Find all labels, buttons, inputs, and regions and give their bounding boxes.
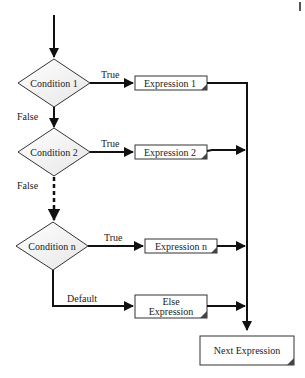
false-label-2: False <box>17 180 39 191</box>
next-expression-label: Next Expression <box>214 345 280 356</box>
page-edge-mark <box>299 2 301 11</box>
expression-n-box: Expression n <box>145 239 217 253</box>
false-label-1: False <box>17 111 39 122</box>
flowchart: Condition 1 True Expression 1 False Cond… <box>0 0 305 378</box>
condition-n-diamond: Condition n <box>16 222 88 270</box>
expression-1-out <box>207 83 247 330</box>
else-expression-box: Else Expression <box>135 295 207 318</box>
expression-1-label: Expression 1 <box>144 78 196 89</box>
true-label-n: True <box>104 232 123 243</box>
true-label-1: True <box>101 69 120 80</box>
condition-1-label: Condition 1 <box>30 78 78 89</box>
expression-2-box: Expression 2 <box>135 145 207 159</box>
true-label-2: True <box>101 138 120 149</box>
default-label: Default <box>67 293 97 304</box>
expression-1-box: Expression 1 <box>135 76 207 90</box>
expression-2-out <box>207 150 245 151</box>
condition-1-diamond: Condition 1 <box>18 59 90 107</box>
condition-2-diamond: Condition 2 <box>18 128 90 176</box>
expression-2-label: Expression 2 <box>144 147 196 158</box>
condition-n-label: Condition n <box>28 241 76 252</box>
else-line2: Expression <box>149 306 193 317</box>
condition-2-label: Condition 2 <box>30 147 78 158</box>
expression-n-label: Expression n <box>155 241 207 252</box>
next-expression-box: Next Expression <box>200 336 294 365</box>
